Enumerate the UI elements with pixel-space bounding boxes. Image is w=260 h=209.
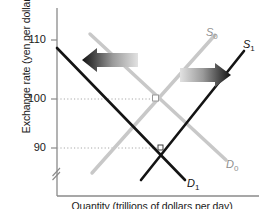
curve-label-s1: S1 — [243, 38, 255, 53]
y-tick-label-90: 90 — [12, 141, 46, 153]
y-axis-break-icon — [53, 168, 61, 180]
curve-label-d0: D0 — [226, 158, 238, 173]
gridlines — [57, 99, 160, 148]
equilibrium-marker-new — [158, 145, 163, 150]
curve-label-s0-sub: 0 — [213, 32, 217, 41]
equilibrium-marker-initial — [153, 95, 159, 101]
x-axis-title: Quantity (trillions of dollars per day) — [44, 200, 260, 209]
chart-canvas — [0, 0, 260, 209]
curve-label-d0-sub: 0 — [234, 164, 238, 173]
curve-label-s0: S0 — [206, 26, 218, 41]
y-axis-title: Exchange rate (yen per dollar) — [20, 0, 32, 144]
curve-label-d0-text: D — [226, 158, 234, 170]
exchange-rate-supply-demand-chart: Exchange rate (yen per dollar) Quantity … — [0, 0, 260, 209]
y-axis-ticks — [51, 40, 57, 148]
curve-label-d1-text: D — [187, 177, 195, 189]
y-tick-label-100: 100 — [12, 92, 46, 104]
curve-label-s1-sub: 1 — [250, 44, 254, 53]
curve-label-d1-sub: 1 — [195, 183, 199, 192]
y-tick-label-110: 110 — [12, 33, 46, 45]
curve-label-d1: D1 — [187, 177, 199, 192]
curve-d1 — [57, 48, 185, 180]
